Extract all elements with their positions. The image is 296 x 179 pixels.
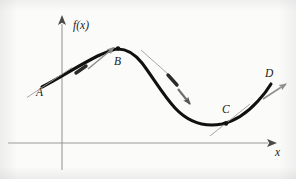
point-label-a: A [36,87,43,99]
tangent-line-bc-upper [141,50,168,74]
point-marker-c [224,121,228,125]
calculus-curve-figure: f(x) x A B C D [0,0,296,179]
function-curve [42,49,271,125]
y-axis-label: f(x) [73,20,89,32]
point-label-d: D [265,68,273,80]
tangent-arrow-bc [178,89,190,104]
tangent-line-c [210,104,250,136]
point-marker-b [116,46,120,50]
point-label-b: B [114,56,121,68]
curve-slope-tick-inflection [168,75,177,85]
x-axis-label: x [275,147,280,159]
point-label-c: C [222,104,230,116]
figure-svg [0,0,296,179]
tangent-line-a [27,68,72,98]
